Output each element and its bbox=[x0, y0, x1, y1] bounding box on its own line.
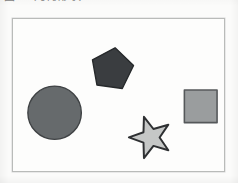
shape-star bbox=[129, 117, 168, 158]
figure-page: 图 2 几何形状 bbox=[0, 0, 238, 183]
shape-pentagon bbox=[92, 48, 133, 89]
shape-circle bbox=[28, 86, 81, 139]
shape-canvas bbox=[13, 19, 224, 171]
figure-caption-strip: 图 2 几何形状 bbox=[0, 0, 238, 9]
shape-square bbox=[184, 90, 217, 123]
figure-caption-text: 图 2 几何形状 bbox=[4, 0, 83, 2]
figure-frame-border bbox=[12, 18, 225, 172]
